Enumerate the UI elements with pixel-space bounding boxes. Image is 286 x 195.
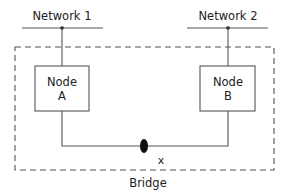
network-1: Network 1 [22, 9, 103, 30]
node-b-label-line1: Node [213, 75, 243, 89]
link-point-marker [140, 139, 148, 153]
bridge-diagram: Network 1 Network 2 Node A Node B x Brid… [0, 0, 286, 195]
node-a-label-line1: Node [47, 75, 77, 89]
network-1-label: Network 1 [33, 9, 92, 23]
node-a: Node A [35, 66, 89, 111]
bridge-label: Bridge [129, 176, 167, 190]
network-2: Network 2 [187, 9, 268, 30]
link-point-label: x [158, 154, 165, 167]
node-b: Node B [200, 66, 255, 111]
node-a-label-line2: A [58, 89, 66, 103]
node-b-label-line2: B [224, 89, 232, 103]
network-2-label: Network 2 [199, 9, 258, 23]
